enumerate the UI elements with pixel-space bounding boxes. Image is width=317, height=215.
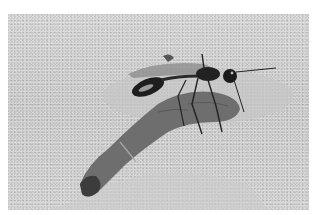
- wasp-caterpillar-photo: [8, 14, 309, 210]
- sand-drift: [48, 173, 268, 210]
- photo-illustration: [8, 14, 309, 210]
- cropped-caption-text: [70, 0, 240, 4]
- wasp-head: [223, 69, 237, 83]
